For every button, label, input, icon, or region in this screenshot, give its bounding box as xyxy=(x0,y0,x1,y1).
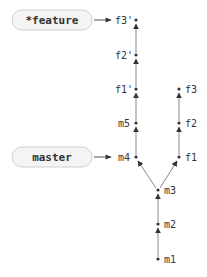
commit-label-m1: m1 xyxy=(164,254,176,265)
commit-node-m3[interactable] xyxy=(156,188,159,191)
branch-label-feature: *feature xyxy=(26,14,79,27)
commit-label-f3p: f3' xyxy=(115,15,133,26)
commit-node-f2p[interactable] xyxy=(134,53,137,56)
commit-node-f1p[interactable] xyxy=(134,87,137,90)
commit-label-m4: m4 xyxy=(118,152,130,163)
commit-node-m2[interactable] xyxy=(156,222,159,225)
commit-label-f1: f1 xyxy=(185,152,197,163)
commit-label-m2: m2 xyxy=(164,219,176,230)
branch-label-master: master xyxy=(32,151,72,164)
edge-m3-m4 xyxy=(138,161,156,188)
commit-labels: m1 m2 m3 m4 m5 f1 f2 f3 f1' f2' f3' xyxy=(115,15,197,265)
commit-label-m3: m3 xyxy=(164,185,176,196)
commit-node-m5[interactable] xyxy=(134,121,137,124)
branch-feature[interactable]: *feature xyxy=(12,10,111,30)
commit-node-f1[interactable] xyxy=(177,155,180,158)
commit-node-m1[interactable] xyxy=(156,257,159,260)
commit-node-f2[interactable] xyxy=(177,121,180,124)
branch-master[interactable]: master xyxy=(12,147,111,167)
commit-label-f2p: f2' xyxy=(115,50,133,61)
commit-node-f3p[interactable] xyxy=(134,18,137,21)
git-graph: m1 m2 m3 m4 m5 f1 f2 f3 f1' f2' f3' *fea… xyxy=(0,0,207,277)
commit-node-f3[interactable] xyxy=(177,87,180,90)
commit-label-m5: m5 xyxy=(118,118,130,129)
commit-node-m4[interactable] xyxy=(134,155,137,158)
commit-label-f1p: f1' xyxy=(115,84,133,95)
commit-label-f3: f3 xyxy=(185,84,197,95)
commit-label-f2: f2 xyxy=(185,118,197,129)
edge-m3-f1 xyxy=(160,161,177,188)
